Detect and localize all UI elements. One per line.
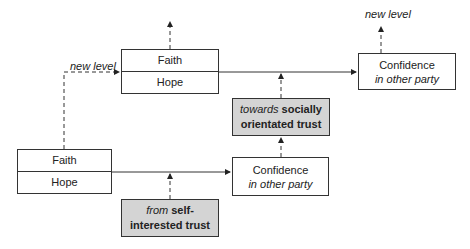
- new-level-label-left: new level: [70, 60, 116, 72]
- bottom-confidence-box: Confidence in other party: [232, 157, 329, 196]
- faith-cell: Faith: [122, 50, 218, 72]
- bottom-faith-hope-box: Faith Hope: [17, 149, 112, 194]
- other-party-text: in other party: [233, 177, 328, 191]
- hope-cell: Hope: [122, 72, 218, 94]
- interested-trust-text: interested trust: [122, 218, 218, 233]
- socially-text: socially: [282, 103, 322, 115]
- hope-cell: Hope: [18, 172, 111, 194]
- confidence-text: Confidence: [233, 163, 328, 177]
- self-text: self-: [171, 204, 194, 216]
- confidence-text: Confidence: [359, 58, 455, 72]
- orientated-trust-text: orientated trust: [233, 117, 329, 132]
- new-level-label-right: new level: [365, 8, 411, 20]
- from-text: from: [146, 204, 168, 216]
- from-self-interested-box: from self- interested trust: [121, 199, 219, 237]
- other-party-text: in other party: [359, 72, 455, 86]
- faith-cell: Faith: [18, 150, 111, 172]
- towards-text: towards: [240, 103, 279, 115]
- towards-socially-orientated-box: towards socially orientated trust: [232, 98, 330, 136]
- top-confidence-box: Confidence in other party: [358, 53, 456, 90]
- top-faith-hope-box: Faith Hope: [121, 49, 219, 94]
